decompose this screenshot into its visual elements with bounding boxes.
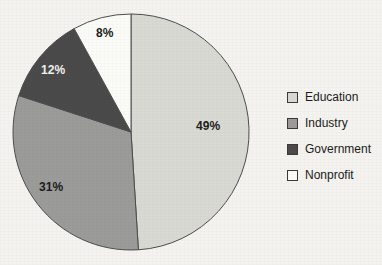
legend-swatch-icon	[287, 92, 298, 103]
legend-label: Education	[305, 91, 358, 103]
slice-value-label-industry: 31%	[39, 180, 63, 194]
legend-item-education[interactable]: Education	[287, 84, 382, 110]
pie-chart: 49%31%12%8%	[0, 0, 268, 265]
legend-label: Industry	[305, 117, 348, 129]
slice-value-label-nonprofit: 8%	[96, 26, 114, 40]
legend-item-nonprofit[interactable]: Nonprofit	[287, 162, 382, 188]
pie-slice-education[interactable]	[131, 14, 249, 250]
legend-swatch-icon	[287, 170, 298, 181]
slice-value-label-education: 49%	[196, 119, 220, 133]
chart-page: 49%31%12%8% EducationIndustryGovernmentN…	[0, 0, 382, 265]
legend-item-industry[interactable]: Industry	[287, 110, 382, 136]
legend-swatch-icon	[287, 144, 298, 155]
legend-label: Government	[305, 143, 371, 155]
legend-swatch-icon	[287, 118, 298, 129]
slice-value-label-government: 12%	[41, 63, 65, 77]
legend-item-government[interactable]: Government	[287, 136, 382, 162]
chart-legend: EducationIndustryGovernmentNonprofit	[287, 84, 382, 188]
pie-svg	[0, 0, 268, 265]
legend-label: Nonprofit	[305, 169, 354, 181]
